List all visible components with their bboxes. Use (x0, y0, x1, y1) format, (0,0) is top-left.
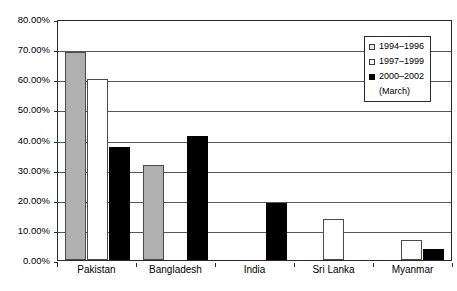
bar (401, 240, 422, 260)
y-tick-label: 60.00% (18, 75, 50, 85)
y-tick-label: 80.00% (18, 15, 50, 25)
x-axis-labels: PakistanBangladeshIndiaSri LankaMyanmar (57, 263, 452, 283)
legend-label: 2000–2002 (379, 71, 424, 82)
legend-swatch-icon (369, 74, 375, 80)
bar-group (58, 21, 137, 260)
x-axis-tick (57, 263, 58, 267)
bar-group (215, 21, 294, 260)
legend-swatch-icon (369, 59, 375, 65)
x-axis-tick (136, 263, 137, 267)
y-tick-label: 20.00% (18, 196, 50, 206)
x-axis-tick (373, 263, 374, 267)
x-axis-tick (452, 263, 453, 267)
y-tick-label: 40.00% (18, 136, 50, 146)
legend-item-1997-1999: 1997–1999 (369, 56, 424, 67)
bar (266, 203, 287, 260)
x-axis-label: Pakistan (57, 263, 136, 283)
x-axis-label: Bangladesh (136, 263, 215, 283)
x-axis-label: Myanmar (373, 263, 452, 283)
legend-label: 1994–1996 (379, 41, 424, 52)
bar (143, 165, 164, 260)
x-axis-label: India (215, 263, 294, 283)
legend-swatch-icon (369, 44, 375, 50)
y-tick-label: 10.00% (18, 226, 50, 236)
chart-legend: 1994–1996 1997–1999 2000–2002 (March) (364, 36, 431, 102)
y-tick-label: 0.00% (23, 256, 50, 266)
y-tick-label: 30.00% (18, 166, 50, 176)
bar (87, 79, 108, 260)
x-axis-tick (294, 263, 295, 267)
bar-group (294, 21, 373, 260)
y-tick-label: 50.00% (18, 105, 50, 115)
legend-label: 1997–1999 (379, 56, 424, 67)
x-axis-tick (215, 263, 216, 267)
bar (423, 249, 444, 260)
legend-item-2000-2002: 2000–2002 (369, 71, 424, 82)
y-tick-label: 70.00% (18, 45, 50, 55)
legend-item-1994-1996: 1994–1996 (369, 41, 424, 52)
x-axis-label: Sri Lanka (294, 263, 373, 283)
bar (65, 52, 86, 260)
bar (187, 136, 208, 260)
bar-group (137, 21, 216, 260)
bar-chart: 80.00% 70.00% 60.00% 50.00% 40.00% 30.00… (0, 0, 457, 291)
bar (109, 147, 130, 260)
bar (323, 219, 344, 260)
y-axis-labels: 80.00% 70.00% 60.00% 50.00% 40.00% 30.00… (0, 0, 56, 291)
legend-label-sub: (March) (369, 86, 424, 97)
